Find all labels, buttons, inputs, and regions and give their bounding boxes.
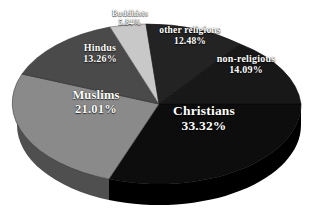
pie-label-non-religious: non-religious 14.09% bbox=[196, 53, 296, 75]
pie-chart: Christians 33.32% Muslims 21.01% non-rel… bbox=[0, 0, 318, 209]
pie-label-muslims-value: 21.01% bbox=[50, 102, 142, 116]
pie-label-muslims: Muslims 21.01% bbox=[50, 88, 142, 116]
pie-label-non-religious-name: non-religious bbox=[196, 53, 296, 64]
pie-label-buddhists: Buddhists 5.84% bbox=[100, 10, 160, 28]
pie-label-hindus-name: Hindus bbox=[58, 42, 142, 53]
pie-label-other-religions-value: 12.48% bbox=[142, 36, 238, 47]
pie-label-christians-name: Christians bbox=[152, 103, 256, 118]
pie-label-hindus: Hindus 13.26% bbox=[58, 42, 142, 64]
pie-label-other-religions: other religions 12.48% bbox=[142, 25, 238, 46]
pie-label-christians-value: 33.32% bbox=[152, 118, 256, 133]
pie-label-christians: Christians 33.32% bbox=[152, 103, 256, 133]
pie-label-muslims-name: Muslims bbox=[50, 88, 142, 102]
pie-label-non-religious-value: 14.09% bbox=[196, 64, 296, 75]
pie-label-hindus-value: 13.26% bbox=[58, 53, 142, 64]
pie-label-buddhists-value: 5.84% bbox=[100, 19, 160, 28]
